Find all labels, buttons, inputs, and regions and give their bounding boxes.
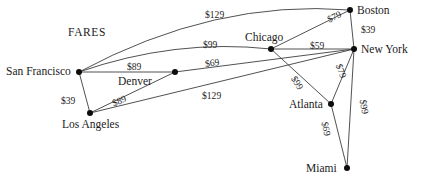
fare-label-denver-new-york: $69 bbox=[204, 57, 220, 69]
fare-label-atlanta-miami: $69 bbox=[320, 121, 332, 137]
edge-san-francisco-los-angeles bbox=[79, 72, 90, 113]
node-dot-miami bbox=[344, 165, 350, 171]
diagram-title: FARES bbox=[68, 27, 106, 39]
fare-label-boston-new-york: $39 bbox=[361, 25, 375, 35]
fare-label-san-francisco-boston: $129 bbox=[205, 10, 224, 20]
fare-label-new-york-miami: $99 bbox=[358, 99, 370, 115]
edge-atlanta-miami bbox=[331, 104, 347, 168]
node-label-boston: Boston bbox=[357, 5, 390, 17]
fare-label-san-francisco-los-angeles: $39 bbox=[61, 96, 75, 106]
edge-denver-new-york bbox=[175, 49, 354, 72]
edge-new-york-miami bbox=[347, 49, 354, 168]
node-label-miami: Miami bbox=[306, 163, 337, 175]
node-label-chicago: Chicago bbox=[245, 32, 283, 44]
edge-boston-new-york bbox=[350, 10, 354, 49]
node-dot-boston bbox=[347, 7, 353, 13]
edge-chicago-atlanta bbox=[271, 49, 331, 104]
node-dot-san-francisco bbox=[76, 69, 82, 75]
node-label-denver: Denver bbox=[118, 76, 152, 88]
node-label-new-york: New York bbox=[361, 44, 408, 56]
node-label-atlanta: Atlanta bbox=[289, 99, 323, 111]
node-dot-atlanta bbox=[328, 101, 334, 107]
node-dot-new-york bbox=[351, 46, 357, 52]
fares-graph-diagram: San FranciscoDenverLos AngelesChicagoBos… bbox=[0, 0, 427, 180]
node-dot-denver bbox=[172, 69, 178, 75]
node-label-san-francisco: San Francisco bbox=[6, 66, 71, 78]
fare-label-san-francisco-denver: $89 bbox=[127, 62, 141, 72]
node-dot-los-angeles bbox=[87, 110, 93, 116]
node-label-los-angeles: Los Angeles bbox=[62, 119, 119, 131]
fare-label-san-francisco-chicago: $99 bbox=[203, 40, 217, 50]
node-dot-chicago bbox=[268, 46, 274, 52]
fare-label-chicago-new-york: $59 bbox=[310, 41, 324, 51]
fare-label-los-angeles-new-york: $129 bbox=[202, 91, 221, 101]
